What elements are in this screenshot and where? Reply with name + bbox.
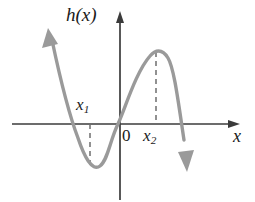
x-axis-label: x (233, 127, 241, 145)
origin-label: 0 (122, 127, 131, 144)
x1-label-subscript: 1 (84, 103, 90, 115)
x2-label-subscript: 2 (151, 134, 157, 146)
x2-label-base: x (143, 126, 151, 145)
graph-canvas (0, 0, 255, 202)
curve-arrowhead-lower-right (178, 150, 194, 172)
x2-label: x2 (143, 127, 156, 146)
curve-arrowhead-upper-left (42, 28, 58, 48)
function-curve (52, 40, 184, 167)
x1-label: x1 (76, 96, 89, 115)
x1-label-base: x (76, 95, 84, 114)
y-axis-arrowhead (116, 11, 124, 23)
function-name-label: h(x) (66, 5, 97, 24)
function-graph-figure: h(x) x1 0 x2 x (0, 0, 255, 202)
y-axis (116, 11, 124, 200)
